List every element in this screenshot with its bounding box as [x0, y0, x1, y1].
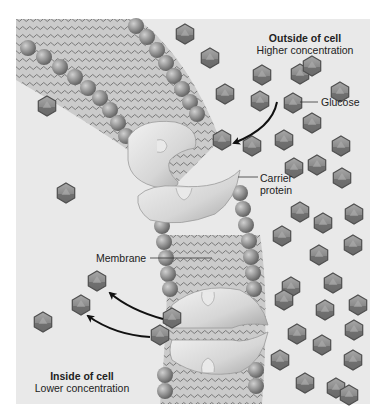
carrier-protein-label: Carrier protein [260, 172, 292, 196]
outside-region-title: Outside of cell [246, 32, 364, 44]
facilitated-diffusion-diagram [0, 0, 380, 414]
glucose-label: Glucose [321, 96, 360, 108]
inside-region-label: Inside of cell Lower concentration [22, 370, 142, 394]
outside-region-label: Outside of cell Higher concentration [246, 32, 364, 56]
membrane-label: Membrane [96, 252, 146, 264]
carrier-protein-label-line1: Carrier [260, 172, 292, 184]
outside-region-subtitle: Higher concentration [246, 44, 364, 56]
carrier-protein-label-line2: protein [260, 184, 292, 196]
inside-region-title: Inside of cell [22, 370, 142, 382]
inside-region-subtitle: Lower concentration [22, 382, 142, 394]
